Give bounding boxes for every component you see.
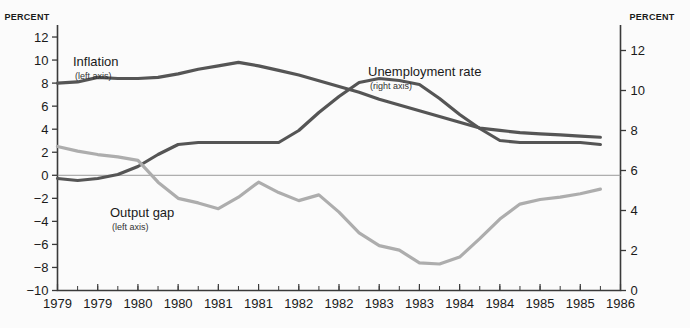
x-axis-tick-label: 1981 xyxy=(204,296,233,311)
right-axis-tick-label: 12 xyxy=(631,43,645,58)
x-axis-tick-label: 1979 xyxy=(83,296,112,311)
left-axis-title: PERCENT xyxy=(4,12,49,22)
annotation-unemployment-label: Unemployment rate xyxy=(368,64,481,79)
right-axis-tick-label: 4 xyxy=(631,203,638,218)
right-axis-tick-label: 10 xyxy=(631,83,645,98)
annotation-sub-inflation-label: (left axis) xyxy=(75,71,112,81)
x-axis-tick-label: 1984 xyxy=(485,296,514,311)
left-axis-tick-label: 4 xyxy=(41,122,48,137)
left-axis-tick-label: −8 xyxy=(34,260,49,275)
left-axis-tick-label: −2 xyxy=(34,191,49,206)
left-axis-tick-label: 8 xyxy=(41,76,48,91)
right-axis-tick-label: 2 xyxy=(631,243,638,258)
right-axis-tick-label: 8 xyxy=(631,123,638,138)
x-axis-tick-label: 1984 xyxy=(445,296,474,311)
left-axis-tick-label: 10 xyxy=(34,53,48,68)
x-axis-tick-label: 1985 xyxy=(526,296,555,311)
annotation-inflation-label: Inflation xyxy=(73,54,119,69)
left-axis-tick-label: 0 xyxy=(41,168,48,183)
x-axis-tick-label: 1980 xyxy=(123,296,152,311)
x-axis-tick-label: 1982 xyxy=(325,296,354,311)
x-axis-tick-label: 1986 xyxy=(606,296,635,311)
chart-background xyxy=(0,0,690,328)
right-axis-tick-label: 6 xyxy=(631,163,638,178)
left-axis-tick-label: 2 xyxy=(41,145,48,160)
annotation-output-gap-label: Output gap xyxy=(110,205,174,220)
left-axis-tick-label: 12 xyxy=(34,30,48,45)
annotation-sub-output-gap-label: (left axis) xyxy=(112,222,149,232)
right-axis-title: PERCENT xyxy=(630,12,675,22)
left-axis-tick-label: −6 xyxy=(34,237,49,252)
chart-figure: 121086420−2−4−6−8−10121086420PERCENTPERC… xyxy=(0,0,690,328)
x-axis-tick-label: 1982 xyxy=(284,296,313,311)
annotation-sub-unemployment-label: (right axis) xyxy=(370,81,412,91)
x-axis-tick-label: 1980 xyxy=(164,296,193,311)
x-axis-tick-label: 1979 xyxy=(43,296,72,311)
x-axis-tick-label: 1985 xyxy=(566,296,595,311)
left-axis-tick-label: 6 xyxy=(41,99,48,114)
left-axis-tick-label: −4 xyxy=(34,214,49,229)
x-axis-tick-label: 1983 xyxy=(405,296,434,311)
x-axis-tick-label: 1981 xyxy=(244,296,273,311)
x-axis-tick-label: 1983 xyxy=(365,296,394,311)
